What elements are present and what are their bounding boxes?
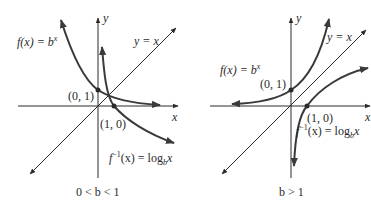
left-x-axis-label: x — [172, 111, 177, 123]
right-exponential-curve — [232, 19, 329, 104]
left-point-0-1-label: (0, 1) — [68, 90, 94, 102]
left-caption: 0 < b < 1 — [76, 186, 120, 198]
left-exponential-label: f(x) = bx — [17, 36, 57, 48]
right-y-axis-label: y — [296, 12, 301, 24]
right-identity-label: y = x — [327, 31, 352, 43]
right-caption: b > 1 — [279, 186, 304, 198]
left-log-label: f−1(x) = logbx — [109, 152, 172, 164]
right-point-1-0 — [305, 104, 310, 109]
right-point-0-1 — [289, 88, 294, 93]
graphs-canvas — [0, 0, 371, 205]
right-log-label: f−1(x) = logbx — [296, 125, 359, 137]
left-identity-label: y = x — [134, 35, 159, 47]
left-point-1-0 — [112, 104, 117, 109]
left-point-1-0-label: (1, 0) — [100, 118, 126, 130]
right-point-0-1-label: (0, 1) — [260, 78, 286, 90]
left-point-0-1 — [96, 88, 101, 93]
right-x-axis-label: x — [365, 111, 370, 123]
right-point-1-0-label: (1, 0) — [307, 112, 333, 124]
left-y-axis-label: y — [103, 12, 108, 24]
right-exponential-label: f(x) = bx — [220, 64, 260, 76]
